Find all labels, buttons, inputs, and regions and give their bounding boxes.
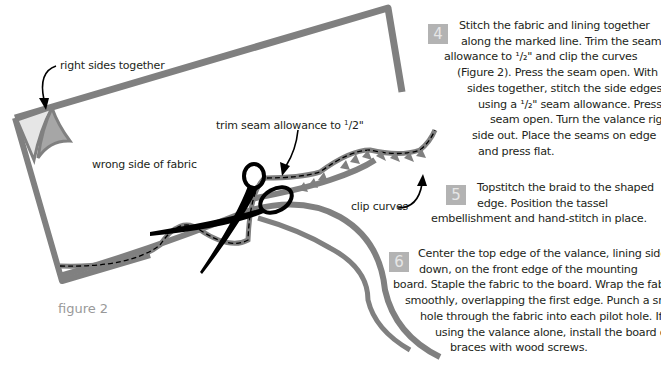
step-6-line: board. Staple the fabric to the board. W…: [0, 277, 661, 293]
step-4-line: allowance to ¹/₂" and clip the curves: [0, 49, 661, 65]
step-4-line: sides together, stitch the side edges: [0, 81, 661, 97]
step-4-line: seam open. Turn the valance right: [0, 112, 661, 128]
step-4-line: along the marked line. Trim the seam: [0, 34, 661, 50]
step-5-line: edge. Position the tassel: [0, 196, 661, 212]
step-4-line: side out. Place the seams on edge: [0, 128, 661, 144]
step-5-line: embellishment and hand-stitch in place.: [0, 211, 661, 227]
step-6-line: Center the top edge of the valance, lini…: [0, 246, 661, 262]
step-4-line: (Figure 2). Press the seam open. With ri…: [0, 65, 661, 81]
label-wrong-side: wrong side of fabric: [92, 158, 197, 171]
step-6-text: Center the top edge of the valance, lini…: [0, 246, 661, 356]
step-6-line: down, on the front edge of the mounting: [0, 262, 661, 278]
step-6-line: braces with wood screws.: [0, 340, 661, 356]
step-5-text: Topstitch the braid to the shaped edge. …: [0, 180, 661, 227]
step-4-text: Stitch the fabric and lining together al…: [0, 18, 661, 159]
step-4-line: and press flat.: [0, 144, 661, 160]
step-6-line: using the valance alone, install the boa…: [0, 325, 661, 341]
step-6-line: hole through the fabric into each pilot …: [0, 309, 661, 325]
step-6-line: smoothly, overlapping the first edge. Pu…: [0, 293, 661, 309]
step-5-line: Topstitch the braid to the shaped: [0, 180, 661, 196]
step-4-line: Stitch the fabric and lining together: [0, 18, 661, 34]
step-4-line: using a ¹/₂" seam allowance. Press the: [0, 97, 661, 113]
trim-arrowhead: [280, 162, 290, 176]
